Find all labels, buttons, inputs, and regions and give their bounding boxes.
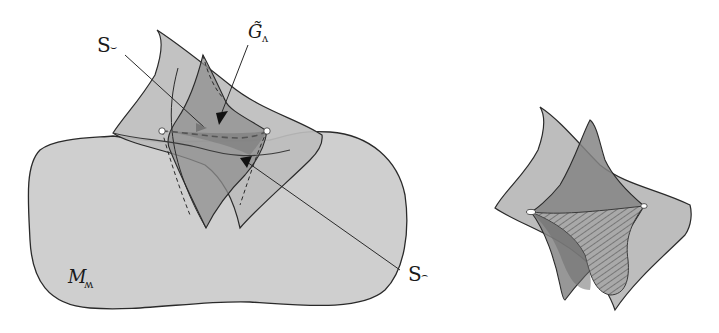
left-figure: S ⌣ S ⌢ G̃ ʌ M ʍ [28, 21, 428, 309]
label-geodesic: G̃ [248, 21, 262, 42]
label-s-top: S [97, 33, 111, 57]
marked-point-left [159, 128, 165, 134]
label-geodesic-sub: ʌ [261, 32, 269, 45]
label-s-bottom: S [408, 262, 422, 286]
diagram-canvas: S ⌣ S ⌢ G̃ ʌ M ʍ [0, 0, 719, 333]
marked-point-right [264, 128, 270, 134]
label-manifold-sub: ʍ [84, 278, 94, 291]
label-s-top-sub: ⌣ [110, 40, 117, 53]
right-marked-point-left [527, 209, 536, 214]
label-s-bottom-sub: ⌢ [421, 269, 428, 282]
right-marked-point-right [641, 204, 647, 209]
right-figure [495, 107, 691, 310]
